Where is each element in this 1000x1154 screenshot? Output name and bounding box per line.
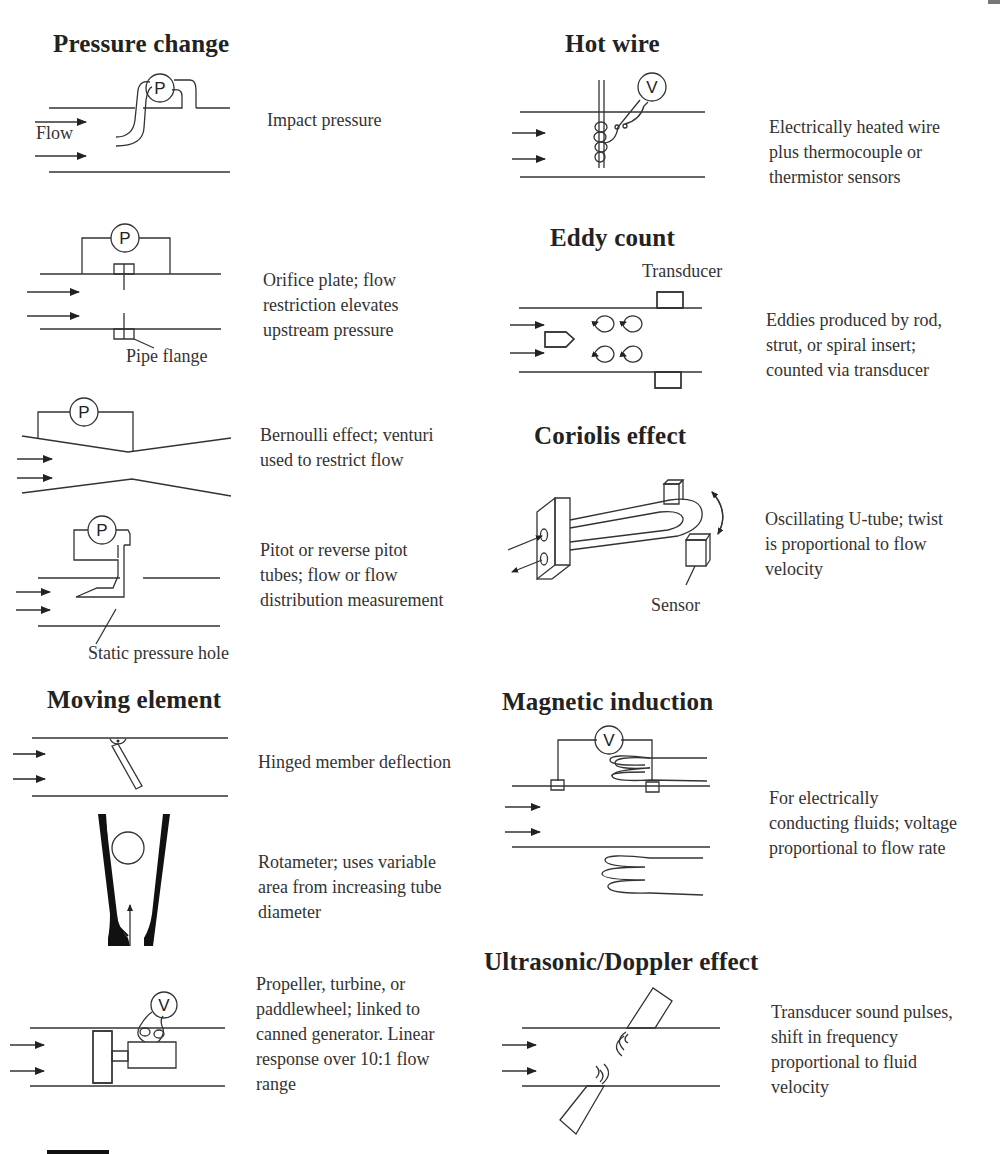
orifice-plate-description: Orifice plate; flow restriction elevates… bbox=[263, 268, 398, 343]
svg-text:P: P bbox=[119, 229, 130, 248]
static-pressure-hole-label: Static pressure hole bbox=[88, 643, 229, 664]
eddy-count-diagram bbox=[500, 280, 720, 390]
magnetic-induction-description: For electrically conducting fluids; volt… bbox=[769, 786, 957, 861]
hot-wire-description: Electrically heated wire plus thermocoup… bbox=[769, 115, 940, 190]
svg-text:P: P bbox=[96, 521, 107, 540]
svg-text:V: V bbox=[158, 996, 170, 1015]
svg-text:V: V bbox=[646, 78, 658, 97]
rotameter-diagram bbox=[0, 810, 200, 950]
ultrasonic-diagram bbox=[500, 990, 740, 1154]
heading-coriolis: Coriolis effect bbox=[534, 422, 686, 450]
turbine-diagram: V bbox=[0, 980, 240, 1100]
transducer-label: Transducer bbox=[642, 261, 722, 282]
venturi-description: Bernoulli effect; venturi used to restri… bbox=[260, 423, 434, 473]
svg-text:P: P bbox=[154, 79, 165, 98]
impact-pressure-diagram: P bbox=[0, 60, 240, 180]
rotameter-description: Rotameter; uses variable area from incre… bbox=[258, 850, 441, 925]
venturi-diagram: P bbox=[0, 390, 240, 510]
magnetic-induction-diagram: V bbox=[500, 720, 720, 900]
turbine-description: Propeller, turbine, or paddlewheel; link… bbox=[256, 972, 434, 1097]
coriolis-description: Oscillating U-tube; twist is proportiona… bbox=[765, 507, 943, 582]
hinged-member-description: Hinged member deflection bbox=[258, 750, 451, 775]
hot-wire-diagram: V bbox=[500, 60, 720, 190]
ultrasonic-description: Transducer sound pulses, shift in freque… bbox=[771, 1000, 953, 1100]
pitot-description: Pitot or reverse pitot tubes; flow or fl… bbox=[260, 538, 443, 613]
heading-hot-wire: Hot wire bbox=[565, 30, 660, 58]
page-corner-mark bbox=[988, 0, 1000, 4]
bottom-marker bbox=[47, 1150, 109, 1154]
sensor-label: Sensor bbox=[651, 595, 700, 616]
heading-eddy-count: Eddy count bbox=[550, 224, 675, 252]
hinged-member-diagram bbox=[0, 720, 240, 800]
pipe-flange-label: Pipe flange bbox=[126, 346, 207, 367]
heading-moving-element: Moving element bbox=[47, 686, 221, 714]
flow-label: Flow bbox=[36, 123, 73, 144]
svg-text:V: V bbox=[603, 731, 615, 750]
heading-pressure-change: Pressure change bbox=[53, 30, 229, 58]
coriolis-diagram bbox=[500, 470, 740, 610]
heading-magnetic-induction: Magnetic induction bbox=[502, 688, 713, 716]
impact-pressure-description: Impact pressure bbox=[267, 108, 381, 133]
heading-ultrasonic: Ultrasonic/Doppler effect bbox=[484, 948, 759, 976]
svg-text:P: P bbox=[78, 403, 89, 422]
eddy-count-description: Eddies produced by rod, strut, or spiral… bbox=[766, 308, 942, 383]
